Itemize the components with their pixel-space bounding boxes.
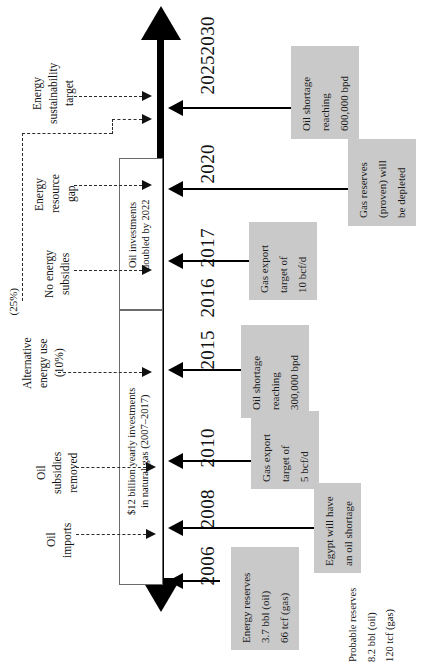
driver-energy-resource-gap-line2: resource (48, 158, 63, 230)
connector-arrow-2017-icon (168, 253, 183, 269)
driver-alternative-energy-line1: Alternative (20, 326, 35, 400)
timeline-arrow-future-icon (141, 6, 181, 40)
annotation-probable-reserves: Probable reserves 8.2 bbl (oil) 120 tcf … (345, 576, 403, 664)
callout-oil-shortage-2025: Oil shortage reaching 600,000 bpd (291, 46, 359, 139)
callout-gas-reserves-2020-line2: (proven) will (375, 148, 391, 218)
dashed-line-oil-subsidies-removed (76, 467, 146, 468)
driver-oil-imports-line1: Oil (44, 510, 59, 570)
dashed-line-energy-resource-gap (74, 185, 142, 186)
year-label-2020: 2020 (196, 144, 219, 184)
callout-energy-reserves-2006-line2: 3.7 bbl (oil) (258, 557, 274, 643)
dashed-line-energy-sustainability (74, 96, 142, 97)
callout-egypt-oil-shortage-2008: Egypt will have an oil shortage (314, 483, 361, 573)
callout-gas-export-2010-line2: target of (278, 420, 294, 482)
callout-energy-reserves-2006: Energy reserves 3.7 bbl (oil) 66 tcf (ga… (231, 547, 299, 650)
callout-oil-shortage-2025-line3: 600,000 bpd (337, 55, 353, 131)
callout-oil-shortage-2015-line3: 300,000 bpd (287, 334, 303, 410)
dashed-arrow-alt-energy-25-icon (142, 114, 152, 124)
callout-egypt-2008-line2: an oil shortage (341, 492, 357, 566)
callout-gas-export-2017-line2: target of (276, 231, 292, 293)
driver-no-energy-subsidies-line2: subsidies (58, 240, 73, 308)
dashed-arrow-alternative-energy-icon (142, 367, 152, 377)
driver-no-energy-subsidies: No energy subsidies (42, 232, 74, 312)
callout-energy-reserves-2006-line1: Energy reserves (239, 557, 255, 643)
connector-arrow-2020-icon (168, 181, 183, 197)
callout-gas-reserves-depleted-2020: Gas reserves (proven) will be depleted (348, 139, 416, 226)
driver-oil-imports-line2: imports (60, 510, 75, 570)
driver-alternative-energy-use: Alternative energy use (10%) (20, 318, 68, 404)
connector-line-2015 (182, 369, 242, 371)
year-label-2016: 2016 (196, 278, 219, 318)
callout-oil-shortage-2015-line1: Oil shortage (249, 334, 265, 410)
phase-box-oil-investments-label: Oil investments doubled by 2022 (126, 175, 158, 295)
dashed-line-alt-energy-25-tail (112, 119, 142, 120)
callout-gas-reserves-2020-line3: be depleted (394, 148, 410, 218)
year-label-2008: 2008 (196, 489, 219, 529)
callout-gas-export-5bcf-2010: Gas export target of 5 bcf/d (251, 411, 319, 489)
connector-line-2017 (182, 260, 250, 262)
phase-box-natural-gas-investments: $12 billion yearly investments in natura… (119, 310, 163, 585)
connector-line-2010 (182, 460, 252, 462)
connector-arrow-2008-icon (168, 520, 183, 536)
driver-energy-resource-gap: Energy resource gap (32, 150, 76, 234)
dashed-arrow-oil-subsidies-removed-icon (146, 462, 156, 472)
timeline-diagram: 2030 2025 2020 2017 2016 2015 2010 2008 … (0, 0, 434, 664)
callout-gas-export-2010-line3: 5 bcf/d (297, 420, 313, 482)
phase-box-oil-investments: Oil investments doubled by 2022 (119, 158, 163, 310)
year-label-2030: 2030 (196, 16, 219, 56)
dashed-arrow-energy-sustainability-icon (142, 91, 152, 101)
driver-energy-resource-gap-line1: Energy (32, 158, 47, 230)
callout-energy-reserves-2006-line3: 66 tcf (gas) (277, 557, 293, 643)
dashed-line-alt-energy-25-riser (112, 119, 113, 134)
driver-energy-sustainability-line3: target (62, 50, 77, 136)
connector-line-2025 (182, 107, 292, 109)
driver-energy-sustainability-line2: sustainability (46, 50, 61, 136)
connector-line-2020 (182, 188, 350, 190)
annotation-alt-energy-share-2030: (25%) (6, 288, 20, 316)
connector-arrow-2006-icon (168, 573, 183, 589)
callout-gas-export-10bcf-2017: Gas export target of 10 bcf/d (249, 222, 317, 300)
driver-alternative-energy-line2: energy use (36, 326, 51, 400)
driver-oil-imports: Oil imports (44, 500, 78, 574)
driver-oil-subsidies-line2: subsidies (50, 440, 65, 506)
dashed-arrow-oil-imports-icon (146, 529, 156, 539)
dashed-line-oil-imports (76, 534, 146, 535)
callout-oil-shortage-2015-line2: reaching (268, 334, 284, 410)
probable-reserves-line3: 120 tcf (gas) (382, 576, 398, 662)
callout-oil-shortage-2015: Oil shortage reaching 300,000 bpd (241, 325, 309, 418)
callout-oil-shortage-2025-line1: Oil shortage (299, 55, 315, 131)
driver-oil-subsidies-removed: Oil subsidies removed (34, 430, 82, 510)
callout-gas-export-2010-line1: Gas export (259, 420, 275, 482)
connector-arrow-2025-icon (168, 100, 183, 116)
dashed-arrow-no-energy-subsidies-icon (142, 265, 152, 275)
callout-oil-shortage-2025-line2: reaching (318, 55, 334, 131)
driver-oil-subsidies-line1: Oil (34, 440, 49, 506)
callout-gas-export-2017-line1: Gas export (257, 231, 273, 293)
connector-line-2006 (182, 580, 220, 582)
driver-no-energy-subsidies-line1: No energy (42, 240, 57, 308)
driver-oil-subsidies-line3: removed (66, 440, 81, 506)
connector-arrow-2010-icon (168, 453, 183, 469)
probable-reserves-line2: 8.2 bbl (oil) (364, 576, 380, 662)
driver-energy-sustainability-line1: Energy (30, 50, 45, 136)
year-label-2015: 2015 (196, 330, 219, 370)
dashed-line-no-energy-subsidies (74, 270, 142, 271)
driver-energy-resource-gap-line3: gap (64, 158, 79, 230)
connector-arrow-2015-icon (168, 362, 183, 378)
connector-line-2008 (182, 527, 315, 529)
driver-energy-sustainability-target: Energy sustainability target (30, 38, 76, 138)
callout-gas-export-2017-line3: 10 bcf/d (295, 231, 311, 293)
year-label-2025: 2025 (196, 55, 219, 95)
dashed-line-alternative-energy (58, 372, 142, 373)
dashed-arrow-energy-resource-gap-icon (142, 180, 152, 190)
probable-reserves-line1: Probable reserves (345, 576, 361, 662)
driver-alternative-energy-line3: (10%) (52, 326, 67, 400)
callout-egypt-2008-line1: Egypt will have (322, 492, 338, 566)
callout-gas-reserves-2020-line1: Gas reserves (356, 148, 372, 218)
dashed-line-alt-energy-25-vertical (22, 133, 23, 301)
